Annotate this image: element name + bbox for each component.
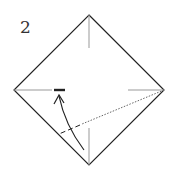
crease-lines (14, 15, 164, 165)
origami-diagram (0, 0, 173, 170)
valley-fold-line (82, 90, 164, 124)
fold-arrow-icon (54, 95, 84, 150)
